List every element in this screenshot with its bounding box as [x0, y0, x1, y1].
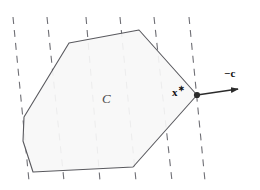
- feasible-set-label: C: [102, 92, 111, 105]
- optimal-point-label-star: ∗: [178, 84, 185, 93]
- optimal-point-dot: [194, 92, 200, 98]
- objective-direction-label: −c: [224, 68, 236, 79]
- figure-canvas: C x∗ −c: [0, 0, 260, 190]
- level-line-1: [13, 17, 29, 181]
- negative-c-arrow: [197, 89, 238, 95]
- optimal-point-label: x∗: [172, 87, 185, 98]
- diagram-svg: [0, 0, 260, 190]
